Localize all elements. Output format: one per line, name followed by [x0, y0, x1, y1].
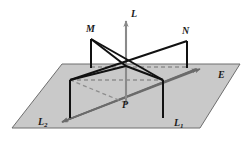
geometry-diagram-svg: L M N P E L 1 L 2: [0, 0, 250, 143]
label-M: M: [85, 23, 96, 34]
label-E-plane: E: [217, 69, 225, 80]
label-N: N: [181, 25, 190, 36]
label-L-vertical: L: [130, 8, 137, 19]
label-P: P: [122, 99, 129, 110]
label-L1-subscript: 1: [180, 122, 184, 130]
label-L2-subscript: 2: [43, 121, 48, 129]
geometry-figure: L M N P E L 1 L 2: [0, 0, 250, 143]
